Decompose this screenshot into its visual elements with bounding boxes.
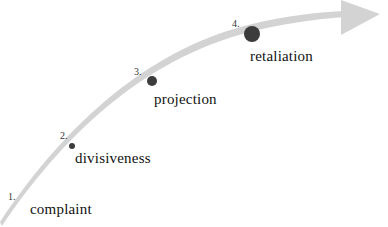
stage-number-3: 3. xyxy=(134,66,142,77)
stage-number-4: 4. xyxy=(232,18,240,29)
stage-label-retaliation: retaliation xyxy=(250,48,313,65)
escalation-arrow xyxy=(0,0,388,227)
arrowhead-icon xyxy=(341,0,380,35)
stage-dot-4 xyxy=(244,26,260,42)
stage-number-1: 1. xyxy=(8,191,16,202)
stage-dot-2 xyxy=(69,143,75,149)
arrow-shaft xyxy=(0,11,345,226)
stage-label-complaint: complaint xyxy=(30,201,92,218)
stage-label-divisiveness: divisiveness xyxy=(75,150,151,167)
stage-dot-3 xyxy=(147,76,157,86)
stage-label-projection: projection xyxy=(154,91,217,108)
stage-number-2: 2. xyxy=(60,130,68,141)
